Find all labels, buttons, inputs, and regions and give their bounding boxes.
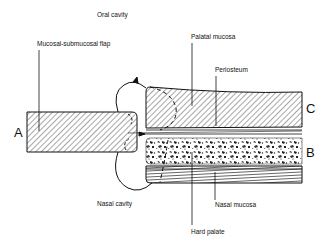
nasal-mucosa-label: Nasal mucosa xyxy=(215,202,256,209)
nasal-mucosa-layer xyxy=(146,166,302,183)
nasal-cavity-label: Nasal cavity xyxy=(97,201,132,208)
flap-block-a xyxy=(27,112,137,152)
diagram-drawing xyxy=(0,0,325,247)
periosteum-label: Periosteum xyxy=(215,67,248,74)
hard-palate-label: Hard palate xyxy=(191,229,225,236)
oral-cavity-label: Oral cavity xyxy=(97,12,128,19)
letter-a-label: A xyxy=(14,126,23,139)
letter-b-label: B xyxy=(306,146,315,159)
palatal-mucosa-label: Palatal mucosa xyxy=(191,34,235,41)
hard-palate-bone-b xyxy=(146,138,302,164)
palatal-mucosa-layer-c xyxy=(128,87,302,134)
mucosal-flap-label: Mucosal-submucosal flap xyxy=(37,41,110,48)
letter-c-label: C xyxy=(306,102,315,115)
diagram-canvas: Oral cavity Mucosal-submucosal flap Pala… xyxy=(0,0,325,247)
